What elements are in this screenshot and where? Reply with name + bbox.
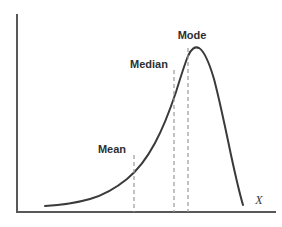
marker-mode: Mode	[178, 29, 207, 212]
density-curve	[45, 47, 243, 206]
marker-median: Median	[130, 58, 174, 212]
median-label: Median	[130, 58, 168, 70]
figure-root: Mean Median Mode X	[0, 0, 282, 227]
mean-label: Mean	[98, 143, 126, 155]
distribution-chart: Mean Median Mode X	[0, 0, 282, 227]
mode-label: Mode	[178, 29, 207, 41]
x-axis-title: X	[254, 193, 263, 207]
